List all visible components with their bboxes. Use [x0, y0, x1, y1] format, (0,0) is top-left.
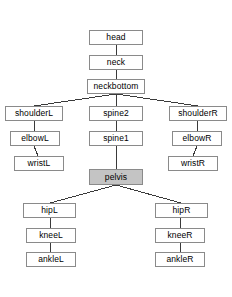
- node-label-neck: neck: [107, 58, 125, 67]
- node-hipL[interactable]: hipL: [23, 203, 76, 218]
- skeleton-hierarchy-diagram: headneckneckbottomshoulderLelbowLwristLs…: [0, 0, 232, 297]
- node-label-ankleR: ankleR: [166, 255, 193, 264]
- edge-pelvis-to-hipL: [50, 185, 116, 203]
- edge-hipR-to-kneeR: [180, 218, 181, 228]
- node-label-shoulderR: shoulderR: [178, 109, 218, 118]
- node-label-elbowL: elbowL: [21, 134, 49, 143]
- node-wristR[interactable]: wristR: [168, 156, 218, 171]
- edge-shoulderR-to-elbowR: [197, 121, 198, 131]
- node-kneeR[interactable]: kneeR: [155, 228, 205, 243]
- node-label-hipL: hipL: [41, 206, 57, 215]
- node-wristL[interactable]: wristL: [14, 156, 64, 171]
- edge-pelvis-to-hipR: [116, 185, 181, 203]
- node-shoulderL[interactable]: shoulderL: [5, 106, 63, 121]
- node-label-shoulderL: shoulderL: [15, 109, 53, 118]
- node-ankleR[interactable]: ankleR: [155, 252, 205, 267]
- node-head[interactable]: head: [89, 30, 143, 45]
- node-label-kneeL: kneeL: [39, 231, 63, 240]
- edge-neckbottom-to-shoulderL: [34, 94, 116, 106]
- node-label-wristL: wristL: [28, 159, 51, 168]
- node-elbowR[interactable]: elbowR: [172, 131, 222, 146]
- node-neckbottom[interactable]: neckbottom: [87, 79, 145, 94]
- edge-elbowL-to-wristL: [34, 146, 38, 156]
- edge-neckbottom-to-shoulderR: [116, 94, 198, 106]
- node-kneeL[interactable]: kneeL: [26, 228, 76, 243]
- node-neck[interactable]: neck: [89, 55, 143, 70]
- node-label-neckbottom: neckbottom: [94, 82, 139, 91]
- node-label-ankleL: ankleL: [38, 255, 64, 264]
- node-shoulderR[interactable]: shoulderR: [169, 106, 227, 121]
- node-label-wristR: wristR: [181, 159, 205, 168]
- node-label-hipR: hipR: [173, 206, 191, 215]
- node-label-pelvis: pelvis: [105, 173, 127, 182]
- node-label-spine2: spine2: [103, 109, 129, 118]
- node-label-head: head: [106, 33, 125, 42]
- node-pelvis[interactable]: pelvis: [89, 169, 143, 185]
- edge-elbowR-to-wristR: [193, 146, 197, 156]
- node-label-spine1: spine1: [103, 134, 129, 143]
- node-ankleL[interactable]: ankleL: [26, 252, 76, 267]
- node-hipR[interactable]: hipR: [155, 203, 208, 218]
- node-spine2[interactable]: spine2: [89, 106, 143, 121]
- node-elbowL[interactable]: elbowL: [10, 131, 60, 146]
- node-label-kneeR: kneeR: [167, 231, 192, 240]
- node-label-elbowR: elbowR: [183, 134, 212, 143]
- node-spine1[interactable]: spine1: [89, 131, 143, 146]
